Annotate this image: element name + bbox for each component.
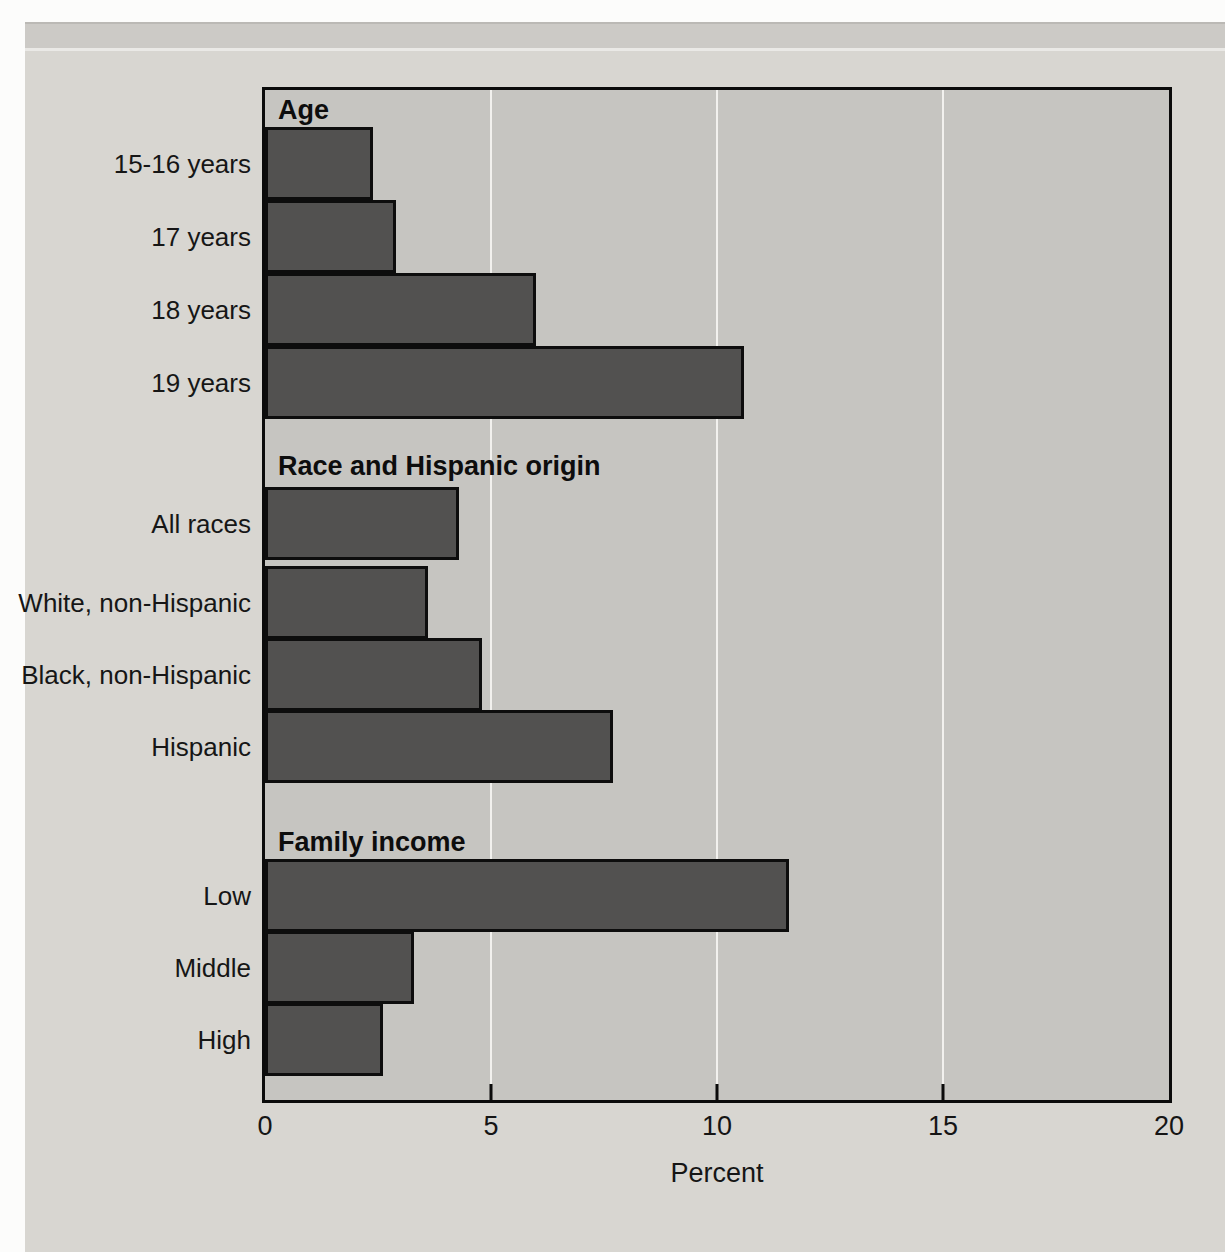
bar-label: 17 years: [151, 224, 251, 250]
x-axis-title: Percent: [670, 1160, 763, 1187]
x-tick-label: 5: [483, 1113, 498, 1140]
bar-label: Hispanic: [151, 734, 251, 760]
bar-label: White, non-Hispanic: [18, 590, 251, 616]
x-tick-label: 0: [257, 1113, 272, 1140]
bar-label: 15-16 years: [114, 151, 251, 177]
plot-area: Age15-16 years17 years18 years19 yearsRa…: [262, 87, 1172, 1103]
bar-label: Middle: [174, 955, 251, 981]
x-tick-label: 15: [928, 1113, 958, 1140]
bar-label: All races: [151, 511, 251, 537]
x-tick-mark: [490, 1084, 493, 1100]
x-tick-label: 10: [702, 1113, 732, 1140]
x-tick-mark: [942, 1084, 945, 1100]
x-tick-label: 20: [1154, 1113, 1184, 1140]
axis-ticks: [265, 90, 1169, 1100]
bar-label: 18 years: [151, 297, 251, 323]
page-top-band: [25, 22, 1225, 51]
bar-label: High: [198, 1027, 251, 1053]
bar-label: Low: [203, 883, 251, 909]
x-tick-mark: [716, 1084, 719, 1100]
bar-label: 19 years: [151, 370, 251, 396]
bar-label: Black, non-Hispanic: [21, 662, 251, 688]
scanned-page: Age15-16 years17 years18 years19 yearsRa…: [0, 0, 1225, 1252]
